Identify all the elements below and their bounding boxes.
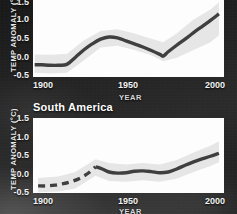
- y-tick-top-0: 1.5: [16, 0, 29, 7]
- y-tick-bottom-3: 0.0: [16, 169, 29, 179]
- y-axis-label-bottom: TEMP ANOMALY (°C): [9, 108, 18, 190]
- chart-svg-bottom: [33, 118, 224, 193]
- plot-area-bottom: [33, 118, 224, 193]
- uncertainty-band: [35, 2, 219, 73]
- x-tick-top-1950: 1950: [118, 80, 138, 90]
- y-tick-top-2: 0.5: [16, 33, 29, 43]
- plot-area-top: [33, 0, 224, 77]
- y-tick-top-1: 1.0: [16, 14, 29, 24]
- x-tick-bottom-1950: 1950: [118, 196, 138, 206]
- y-tick-bottom-0: 1.5: [16, 113, 29, 123]
- x-tick-bottom-1900: 1900: [33, 196, 53, 206]
- x-tick-top-2000: 2000: [205, 80, 225, 90]
- y-tick-top-3: 0.0: [16, 52, 29, 62]
- chart-panel-top: 1.5 1.0 0.5 0.0 -0.5 TEMP ANOMALY (°C) 1…: [0, 0, 237, 107]
- y-tick-bottom-1: 1.0: [16, 132, 29, 142]
- chart-svg-top: [33, 0, 224, 77]
- x-axis-label-top: YEAR: [119, 93, 142, 102]
- x-tick-bottom-2000: 2000: [205, 196, 225, 206]
- y-tick-bottom-2: 0.5: [16, 150, 29, 160]
- x-tick-top-1900: 1900: [33, 80, 53, 90]
- y-axis-label-top: TEMP ANOMALY (°C): [9, 0, 18, 72]
- x-axis-label-bottom: YEAR: [119, 207, 142, 214]
